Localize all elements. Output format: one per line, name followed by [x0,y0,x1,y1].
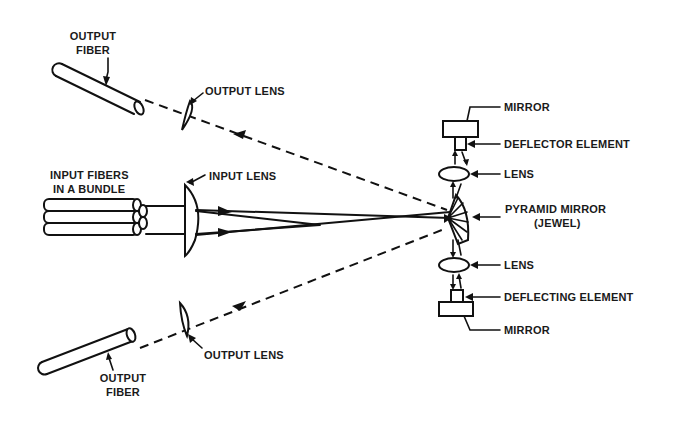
lens-bottom-label: LENS [504,259,534,271]
input-fiber-to-lens-lines [146,206,186,234]
deflector-element-pointer-icon [467,140,500,148]
output-fiber-bottom-label-1: OUTPUT [100,372,146,384]
lens-top-pointer-icon [470,170,500,178]
input-beams [196,206,450,237]
mirror-bottom [439,302,473,316]
output-lens-bottom-label: OUTPUT LENS [204,349,284,361]
output-fiber-bottom-pointer-icon [106,352,113,370]
mirror-top-pointer-icon [467,107,500,121]
mirror-bottom-label: MIRROR [504,324,550,336]
deflecting-element-label: DEFLECTING ELEMENT [504,291,634,303]
lens-bottom-pointer-icon [470,261,500,269]
input-fibers-label-2: IN A BUNDLE [53,183,125,195]
pyramid-mirror-pointer-icon [472,213,500,221]
output-fiber-top-pointer-icon [103,58,110,86]
pyramid-mirror-label-2: (JEWEL) [534,217,581,229]
deflector-element-label: DEFLECTOR ELEMENT [504,138,630,150]
output-lens-bottom [180,303,188,336]
mirror-top-label: MIRROR [504,101,550,113]
input-lens [185,185,198,256]
return-beam-top-arrow-icon [233,130,246,139]
lens-bottom-to-pyramid-rays [450,240,461,258]
deflecting-element-bottom [450,273,463,302]
deflector-element-top [452,137,469,166]
output-fiber-top-label-2: FIBER [76,44,110,56]
input-lens-label: INPUT LENS [209,170,276,182]
lens-top [439,167,469,181]
output-lens-bottom-pointer-icon [188,334,202,348]
lens-top-label: LENS [504,168,534,180]
return-beam-bottom-arrow-icon [232,301,246,311]
output-fiber-bottom-label-2: FIBER [106,386,140,398]
input-fiber-bundle [44,199,147,235]
output-fiber-bottom [38,327,137,374]
output-lens-top-label: OUTPUT LENS [205,85,285,97]
pyramid-mirror-label-1: PYRAMID MIRROR [505,203,606,215]
input-lens-pointer-icon [186,175,205,186]
output-lens-top [182,101,192,130]
output-lens-top-pointer-icon [190,93,203,105]
input-fibers-label-1: INPUT FIBERS [50,169,129,181]
optical-switch-diagram: OUTPUT FIBER OUTPUT LENS INPUT FIBERS IN… [0,0,678,421]
beam-arrow-lower-icon [218,228,232,237]
pyramid-mirror [444,195,468,244]
mirror-top [443,121,478,137]
output-fiber-top-label-1: OUTPUT [70,30,116,42]
output-fiber-top [52,63,145,116]
deflecting-element-pointer-icon [465,293,500,301]
lens-bottom [439,258,469,272]
mirror-bottom-pointer-icon [464,316,500,330]
